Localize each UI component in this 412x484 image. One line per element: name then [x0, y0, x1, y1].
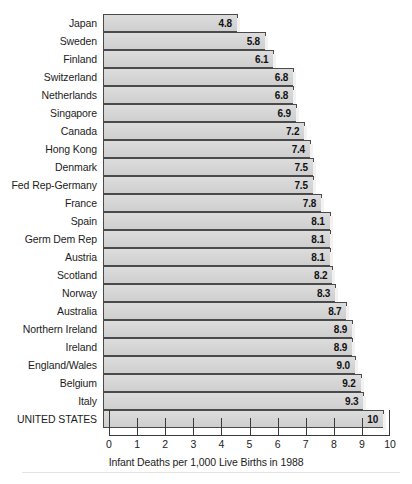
bar-value-label: 8.1	[311, 234, 329, 245]
bar-value-label: 8.3	[317, 288, 335, 299]
x-axis-tick-label: 4	[218, 438, 224, 450]
x-axis-tick	[389, 410, 390, 435]
bar-category-label: Sweden	[0, 32, 103, 50]
bar-track: 8.1	[103, 212, 412, 230]
x-axis-title: Infant Deaths per 1,000 Live Births in 1…	[0, 456, 412, 468]
bar-value-label: 6.9	[278, 108, 296, 119]
bar-category-label: Australia	[0, 302, 103, 320]
x-axis-tick	[334, 418, 335, 435]
bar-track: 7.8	[103, 194, 412, 212]
bar: 7.8	[103, 194, 322, 212]
bar-category-label: Denmark	[0, 158, 103, 176]
chart-plot-area: Japan4.8Sweden5.8Finland6.1Switzerland6.…	[0, 14, 412, 428]
bar: 6.1	[103, 50, 274, 68]
bar-track: 7.4	[103, 140, 412, 158]
infant-mortality-bar-chart: Japan4.8Sweden5.8Finland6.1Switzerland6.…	[0, 0, 412, 484]
bar-value-label: 9.0	[337, 360, 355, 371]
bar-value-label: 8.1	[311, 252, 329, 263]
bar-category-label: Japan	[0, 14, 103, 32]
bar-row: Netherlands6.8	[0, 86, 412, 104]
bar: 8.1	[103, 212, 331, 230]
bar-row: Scotland8.2	[0, 266, 412, 284]
bar-category-label: Ireland	[0, 338, 103, 356]
x-axis: 012345678910	[0, 410, 412, 450]
bar-row: Sweden5.8	[0, 32, 412, 50]
bar-track: 6.8	[103, 68, 412, 86]
bar-value-label: 9.2	[342, 378, 360, 389]
x-axis-tick-labels: 012345678910	[109, 436, 390, 450]
bar: 4.8	[103, 14, 238, 32]
bar-row: Japan4.8	[0, 14, 412, 32]
bar-track: 7.5	[103, 158, 412, 176]
x-axis-tick-label: 5	[247, 438, 253, 450]
bar-row: Singapore6.9	[0, 104, 412, 122]
bar-row: Hong Kong7.4	[0, 140, 412, 158]
bar-row: Spain8.1	[0, 212, 412, 230]
bar-row: Austria8.1	[0, 248, 412, 266]
bar: 7.5	[103, 176, 314, 194]
x-axis-tick-label: 7	[303, 438, 309, 450]
bar-row: Denmark7.5	[0, 158, 412, 176]
bar-value-label: 7.2	[286, 126, 304, 137]
bar-row: Northern Ireland8.9	[0, 320, 412, 338]
bar-track: 8.1	[103, 248, 412, 266]
x-axis-tick	[193, 418, 194, 435]
bar-track: 7.2	[103, 122, 412, 140]
bar-row: Australia8.7	[0, 302, 412, 320]
bar-row: England/Wales9.0	[0, 356, 412, 374]
bar-value-label: 7.4	[292, 144, 310, 155]
bar-value-label: 4.8	[219, 18, 237, 29]
bar: 5.8	[103, 32, 266, 50]
x-axis-tick	[362, 418, 363, 435]
bar-category-label: Canada	[0, 122, 103, 140]
bar-row: Germ Dem Rep8.1	[0, 230, 412, 248]
bar-row: Fed Rep-Germany7.5	[0, 176, 412, 194]
bar-track: 9.0	[103, 356, 412, 374]
bar-track: 8.3	[103, 284, 412, 302]
x-axis-tick	[221, 418, 222, 435]
bar-track: 6.1	[103, 50, 412, 68]
x-axis-tick	[306, 418, 307, 435]
bar: 8.9	[103, 338, 353, 356]
bar-category-label: Spain	[0, 212, 103, 230]
bar: 7.5	[103, 158, 314, 176]
bar-value-label: 5.8	[247, 36, 265, 47]
bar-category-label: Hong Kong	[0, 140, 103, 158]
bar-track: 8.9	[103, 338, 412, 356]
bar-track: 7.5	[103, 176, 412, 194]
bar: 8.9	[103, 320, 353, 338]
bar-value-label: 7.5	[294, 180, 312, 191]
x-axis-tick	[109, 410, 110, 435]
bar-category-label: Scotland	[0, 266, 103, 284]
x-axis-tick-label: 10	[384, 438, 396, 450]
bar-value-label: 7.5	[294, 162, 312, 173]
bar-category-label: Switzerland	[0, 68, 103, 86]
bar-category-label: Germ Dem Rep	[0, 230, 103, 248]
bar: 8.1	[103, 248, 331, 266]
bar-category-label: Belgium	[0, 374, 103, 392]
footer-divider	[22, 472, 400, 473]
x-axis-tick-label: 0	[106, 438, 112, 450]
bar-track: 6.9	[103, 104, 412, 122]
bar-value-label: 8.7	[328, 306, 346, 317]
bar-category-label: Norway	[0, 284, 103, 302]
x-axis-tick-label: 2	[162, 438, 168, 450]
bar: 9.2	[103, 374, 362, 392]
bar-category-label: Italy	[0, 392, 103, 410]
bar-value-label: 9.3	[345, 396, 363, 407]
bar-value-label: 7.8	[303, 198, 321, 209]
bar-track: 9.3	[103, 392, 412, 410]
x-axis-tick	[250, 418, 251, 435]
bar-category-label: Austria	[0, 248, 103, 266]
bar-row: Canada7.2	[0, 122, 412, 140]
bar-row: Finland6.1	[0, 50, 412, 68]
bar: 8.1	[103, 230, 331, 248]
bar-track: 8.2	[103, 266, 412, 284]
bar-track: 4.8	[103, 14, 412, 32]
bar-value-label: 8.9	[334, 342, 352, 353]
bar-category-label: Netherlands	[0, 86, 103, 104]
bar: 6.8	[103, 86, 294, 104]
bar-value-label: 10	[367, 414, 383, 425]
bar-track: 8.7	[103, 302, 412, 320]
bar-track: 8.1	[103, 230, 412, 248]
